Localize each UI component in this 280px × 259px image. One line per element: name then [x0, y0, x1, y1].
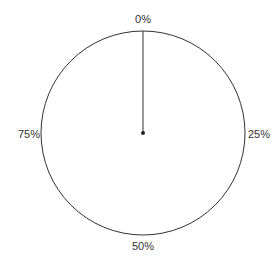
tick-label-75: 75% — [18, 128, 40, 140]
tick-label-50: 50% — [132, 240, 154, 252]
dial-center-dot — [141, 131, 145, 135]
tick-label-0: 0% — [135, 13, 151, 25]
tick-label-25: 25% — [248, 128, 270, 140]
dial-graphic — [0, 0, 280, 259]
